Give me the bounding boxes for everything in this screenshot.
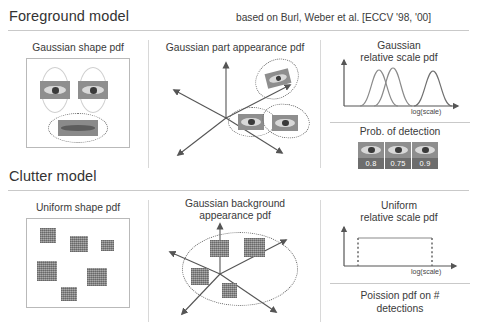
caption-gaussian-shape-pdf: Gaussian shape pdf — [18, 42, 138, 55]
section-title-clutter: Clutter model — [9, 168, 97, 184]
detection-value-3: 0.9 — [412, 158, 438, 169]
detection-patch-1 — [358, 142, 384, 158]
clutter-patch-1 — [40, 228, 56, 243]
caption-gaussian-background-line2: appearance pdf — [155, 210, 315, 223]
gaussian-shape-pdf-frame — [26, 58, 130, 148]
divider-above-poisson — [330, 283, 470, 284]
column-divider-right-top — [320, 40, 321, 168]
caption-uniform-shape-pdf: Uniform shape pdf — [18, 202, 138, 215]
caption-gaussian-background-line1: Gaussian background — [155, 198, 315, 211]
caption-uniform-relative-scale-line1: Uniform — [330, 200, 468, 213]
detection-cell-1: 0.8 — [358, 142, 384, 169]
section-citation-foreground: based on Burl, Weber et al. [ECCV '98, '… — [236, 12, 431, 23]
uniform-relative-scale-plot — [334, 222, 466, 278]
clutter-patch-6 — [61, 287, 77, 301]
caption-prob-of-detection: Prob. of detection — [330, 126, 470, 139]
divider-under-foreground-title — [8, 30, 469, 31]
section-title-foreground: Foreground model — [9, 8, 129, 24]
axis-label-log-scale-foreground: log(scale) — [411, 108, 441, 115]
column-divider-left-bottom — [148, 200, 149, 322]
slide-canvas: Foreground model based on Burl, Weber et… — [0, 0, 477, 328]
part-patch-mouth — [58, 120, 98, 136]
caption-gaussian-relative-scale-line1: Gaussian — [330, 40, 468, 53]
caption-gaussian-part-appearance-pdf: Gaussian part appearance pdf — [155, 42, 315, 55]
background-patch-3 — [191, 268, 209, 285]
gaussian-relative-scale-plot — [334, 54, 466, 118]
caption-poisson-line2: detections — [330, 303, 470, 316]
appearance-patch-lower-left — [238, 114, 264, 130]
clutter-patch-4 — [37, 261, 57, 281]
part-patch-left-eye — [40, 81, 70, 99]
background-patch-2 — [244, 238, 265, 257]
detection-patch-2 — [385, 142, 411, 158]
detection-patch-3 — [412, 142, 438, 158]
column-divider-left-top — [148, 40, 149, 168]
clutter-patch-2 — [70, 236, 88, 252]
prob-of-detection-strip: 0.8 0.75 0.9 — [358, 142, 438, 169]
divider-under-clutter-title — [8, 190, 469, 191]
part-patch-right-eye — [78, 81, 108, 99]
detection-value-2: 0.75 — [385, 158, 411, 169]
background-patch-4 — [222, 283, 237, 298]
appearance-patch-lower-right — [272, 115, 298, 131]
axis-label-log-scale-clutter: log(scale) — [411, 268, 441, 275]
detection-cell-2: 0.75 — [385, 142, 411, 169]
clutter-patch-5 — [87, 268, 107, 286]
clutter-patch-3 — [101, 240, 114, 251]
detection-value-1: 0.8 — [358, 158, 384, 169]
divider-above-prob-detection — [330, 122, 470, 123]
detection-cell-3: 0.9 — [412, 142, 438, 169]
background-patch-1 — [210, 240, 229, 257]
uniform-shape-pdf-frame — [26, 218, 130, 308]
caption-poisson-line1: Poission pdf on # — [330, 290, 470, 303]
column-divider-right-bottom — [320, 200, 321, 322]
